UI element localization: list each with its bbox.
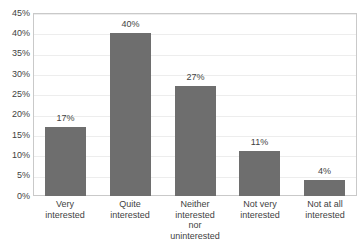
x-axis-category-label: Not at allinterested bbox=[289, 199, 361, 220]
x-axis-category-line: nor bbox=[159, 220, 231, 231]
x-axis-category-label: Neitherinterestednoruninterested bbox=[159, 199, 231, 241]
bar-value-label: 4% bbox=[304, 167, 345, 176]
y-axis-tick-label: 10% bbox=[0, 151, 30, 160]
x-axis-category-label: Veryinterested bbox=[29, 199, 101, 220]
bar-value-label: 17% bbox=[45, 114, 86, 123]
x-axis-category-line: uninterested bbox=[159, 231, 231, 242]
bar bbox=[45, 127, 86, 196]
y-axis-tick-label: 25% bbox=[0, 90, 30, 99]
x-axis-category-line: interested bbox=[94, 210, 166, 221]
x-axis: VeryinterestedQuiteinterestedNeitherinte… bbox=[33, 199, 357, 247]
y-axis: 0%5%10%15%20%25%30%35%40%45% bbox=[0, 0, 30, 247]
x-axis-category-line: Neither bbox=[159, 199, 231, 210]
y-axis-tick-label: 35% bbox=[0, 49, 30, 58]
y-axis-tick-label: 15% bbox=[0, 131, 30, 140]
y-axis-tick-label: 20% bbox=[0, 110, 30, 119]
y-axis-tick-label: 5% bbox=[0, 171, 30, 180]
bar-value-label: 11% bbox=[239, 138, 280, 147]
bar bbox=[110, 33, 151, 196]
bar bbox=[175, 86, 216, 196]
x-axis-category-line: Quite bbox=[94, 199, 166, 210]
bar-chart: 0%5%10%15%20%25%30%35%40%45% 17%40%27%11… bbox=[0, 0, 363, 247]
bars-layer: 17%40%27%11%4% bbox=[33, 13, 357, 196]
x-axis-category-line: interested bbox=[289, 210, 361, 221]
x-axis-category-label: Quiteinterested bbox=[94, 199, 166, 220]
x-axis-category-line: Not at all bbox=[289, 199, 361, 210]
bar-value-label: 40% bbox=[110, 20, 151, 29]
x-axis-category-line: interested bbox=[159, 210, 231, 221]
x-axis-category-line: interested bbox=[224, 210, 296, 221]
bar bbox=[239, 151, 280, 196]
x-axis-category-line: interested bbox=[29, 210, 101, 221]
y-axis-tick-label: 30% bbox=[0, 70, 30, 79]
bar bbox=[304, 180, 345, 196]
x-axis-category-line: Very bbox=[29, 199, 101, 210]
bar-value-label: 27% bbox=[175, 73, 216, 82]
x-axis-category-label: Not veryinterested bbox=[224, 199, 296, 220]
y-axis-tick-label: 0% bbox=[0, 192, 30, 201]
y-axis-tick-label: 45% bbox=[0, 9, 30, 18]
y-axis-tick-label: 40% bbox=[0, 29, 30, 38]
x-axis-category-line: Not very bbox=[224, 199, 296, 210]
